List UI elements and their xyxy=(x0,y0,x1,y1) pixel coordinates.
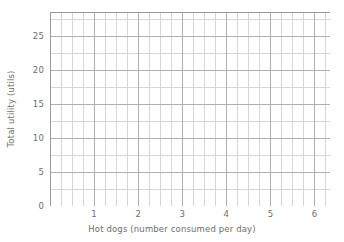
x-tick-label: 5 xyxy=(268,209,274,219)
x-tick-label: 1 xyxy=(91,209,97,219)
x-axis-title: Hot dogs (number consumed per day) xyxy=(0,224,344,234)
y-axis-title: Total utility (utils) xyxy=(6,70,16,147)
y-tick-label: 0 xyxy=(22,201,44,211)
y-tick-label: 20 xyxy=(22,65,44,75)
x-tick-label: 6 xyxy=(312,209,318,219)
y-axis-title-container: Total utility (utils) xyxy=(0,0,22,218)
x-tick-label: 3 xyxy=(179,209,185,219)
y-tick-label: 25 xyxy=(22,31,44,41)
chart-figure: 1234560510152025 Total utility (utils) H… xyxy=(0,0,344,242)
y-tick-label: 5 xyxy=(22,167,44,177)
grid-svg xyxy=(50,12,330,206)
x-tick-label: 4 xyxy=(224,209,230,219)
y-tick-label: 15 xyxy=(22,99,44,109)
y-tick-label: 10 xyxy=(22,133,44,143)
x-tick-label: 2 xyxy=(135,209,141,219)
plot-area xyxy=(50,12,330,206)
